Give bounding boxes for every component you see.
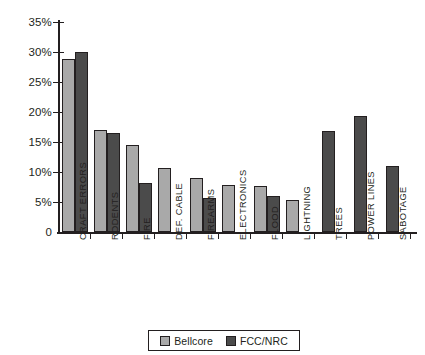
y-axis-label-1: 30% (4, 46, 52, 58)
x-axis-label-8: TREES (334, 207, 344, 240)
x-axis-label-6: FLOOD (270, 206, 280, 240)
legend-item-bellcore[interactable]: Bellcore (160, 335, 213, 347)
y-axis-label-6: 5% (4, 196, 52, 208)
legend-swatch-bellcore-icon (160, 336, 170, 346)
bar-group (250, 22, 282, 232)
bar-group (122, 22, 154, 232)
bar-bellcore[interactable] (190, 178, 203, 232)
legend-item-fcc-nrc[interactable]: FCC/NRC (226, 335, 288, 347)
x-axis-label-3: DEF. CABLE (174, 183, 184, 240)
bar-bellcore[interactable] (94, 130, 107, 232)
x-tick-3 (154, 232, 155, 239)
bar-bellcore[interactable] (254, 186, 267, 232)
x-axis-label-5: ELECTRONICS (238, 169, 248, 240)
y-axis-label-7: 0 (4, 226, 52, 238)
bar-chart: 35% 30% 25% 20% 15% 10% 5% 0 CRAFT E (0, 0, 425, 355)
legend-swatch-fcc-nrc-icon (226, 336, 236, 346)
bar-bellcore[interactable] (158, 168, 171, 232)
x-axis-label-9: POWER LINES (366, 171, 376, 240)
x-tick-5 (218, 232, 219, 239)
x-tick-4 (186, 232, 187, 239)
legend-label-bellcore: Bellcore (174, 335, 213, 347)
bar-group (314, 22, 346, 232)
x-tick-11 (410, 232, 411, 239)
y-axis-label-3: 20% (4, 106, 52, 118)
x-axis-label-7: LIGHTNING (302, 186, 312, 240)
x-tick-8 (314, 232, 315, 239)
bar-bellcore[interactable] (126, 145, 139, 232)
y-axis-labels: 35% 30% 25% 20% 15% 10% 5% 0 (0, 0, 52, 240)
x-axis-label-10: SABOTAGE (398, 186, 408, 240)
x-tick-6 (250, 232, 251, 239)
x-tick-2 (122, 232, 123, 239)
y-axis-label-5: 10% (4, 166, 52, 178)
x-axis-label-0: CRAFT ERRORS (78, 162, 88, 240)
x-tick-9 (346, 232, 347, 239)
bar-bellcore[interactable] (286, 200, 299, 232)
x-axis-label-4: FIREARMS (206, 189, 216, 240)
x-tick-7 (282, 232, 283, 239)
y-axis-label-4: 15% (4, 136, 52, 148)
x-axis-label-2: FIRE (142, 217, 152, 240)
x-tick-1 (90, 232, 91, 239)
chart-legend: Bellcore FCC/NRC (148, 330, 300, 351)
bar-bellcore[interactable] (222, 185, 235, 232)
y-axis-label-2: 25% (4, 76, 52, 88)
y-axis-label-0: 35% (4, 16, 52, 28)
x-axis-label-1: RODENTS (110, 192, 120, 240)
legend-label-fcc-nrc: FCC/NRC (240, 335, 288, 347)
x-tick-10 (378, 232, 379, 239)
bar-bellcore[interactable] (62, 59, 75, 232)
